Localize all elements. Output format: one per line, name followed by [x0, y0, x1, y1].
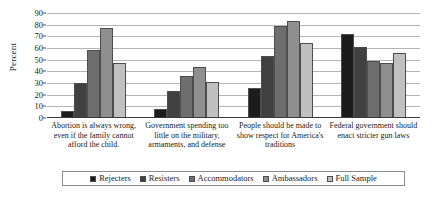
bar-chart-figure: Percent 0102030405060708090 Abortion is … [0, 0, 433, 202]
legend-item-accommodators: Accommodators [189, 174, 254, 183]
bar-rejecters-3 [248, 88, 261, 118]
legend-item-full-sample: Full Sample [327, 174, 377, 183]
plot-area: 0102030405060708090 [47, 13, 420, 118]
y-tick-label-80: 80 [35, 20, 44, 29]
x-axis-line [47, 117, 420, 118]
legend-item-ambassadors: Ambassadors [263, 174, 318, 183]
bar-group-2 [140, 13, 233, 118]
tick-mark-90 [43, 13, 46, 14]
bar-rejecters-4 [341, 34, 354, 118]
bar-accommodators-1 [87, 50, 100, 118]
legend-swatch-icon [327, 176, 333, 182]
bar-full-sample-4 [393, 53, 406, 118]
bar-resisters-4 [354, 47, 367, 118]
legend-label: Rejecters [99, 174, 131, 183]
tick-mark-40 [43, 71, 46, 72]
tick-mark-70 [43, 36, 46, 37]
category-label-1: Abortion is always wrong, even if the fa… [47, 121, 140, 150]
bar-full-sample-2 [206, 82, 219, 118]
bar-group-4 [327, 13, 420, 118]
legend-label: Full Sample [336, 174, 377, 183]
bar-ambassadors-1 [100, 28, 113, 118]
y-axis-title: Percent [8, 22, 18, 92]
legend-swatch-icon [90, 176, 96, 182]
legend-item-rejecters: Rejecters [90, 174, 131, 183]
tick-mark-0 [43, 118, 46, 119]
chart-legend: RejectersResistersAccommodatorsAmbassado… [62, 171, 405, 186]
y-tick-label-20: 20 [35, 90, 44, 99]
tick-mark-60 [43, 47, 46, 48]
tick-mark-50 [43, 59, 46, 60]
bar-ambassadors-4 [380, 63, 393, 118]
y-tick-label-40: 40 [35, 67, 44, 76]
y-tick-label-10: 10 [35, 102, 44, 111]
bar-full-sample-3 [300, 43, 313, 118]
category-label-3: People should be made to show respect fo… [234, 121, 327, 150]
bar-resisters-1 [74, 83, 87, 118]
tick-mark-20 [43, 94, 46, 95]
legend-swatch-icon [189, 176, 195, 182]
tick-mark-80 [43, 24, 46, 25]
bar-accommodators-4 [367, 61, 380, 118]
legend-label: Resisters [149, 174, 180, 183]
tick-mark-30 [43, 82, 46, 83]
bar-resisters-2 [167, 91, 180, 118]
bar-accommodators-2 [180, 76, 193, 118]
y-tick-label-0: 0 [39, 114, 43, 123]
bar-ambassadors-3 [287, 21, 300, 118]
bar-group-1 [47, 13, 140, 118]
bar-resisters-3 [261, 56, 274, 118]
legend-label: Ambassadors [272, 174, 318, 183]
category-label-4: Federal government should enact stricter… [327, 121, 420, 150]
legend-item-resisters: Resisters [140, 174, 180, 183]
y-tick-label-30: 30 [35, 79, 44, 88]
y-tick-label-90: 90 [35, 9, 44, 18]
bar-groups [47, 13, 420, 118]
legend-label: Accommodators [198, 174, 254, 183]
bar-ambassadors-2 [193, 67, 206, 118]
y-tick-label-50: 50 [35, 55, 44, 64]
bar-group-3 [234, 13, 327, 118]
bar-accommodators-3 [274, 26, 287, 118]
y-tick-label-60: 60 [35, 44, 44, 53]
x-axis-category-labels: Abortion is always wrong, even if the fa… [47, 121, 420, 150]
tick-mark-10 [43, 106, 46, 107]
bar-full-sample-1 [113, 63, 126, 118]
y-tick-label-70: 70 [35, 32, 44, 41]
category-label-2: Government spending too little on the mi… [140, 121, 233, 150]
legend-swatch-icon [140, 176, 146, 182]
legend-swatch-icon [263, 176, 269, 182]
